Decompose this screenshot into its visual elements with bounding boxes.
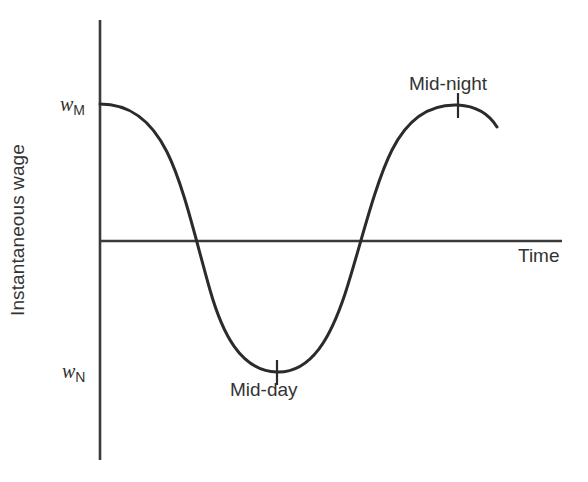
annotation-mid-night: Mid-night (409, 74, 487, 93)
chart-figure: Instantaneous wage Time wM wN Mid-night … (0, 0, 588, 482)
wage-cycle-line-chart (0, 0, 588, 482)
wage-symbol-upper: w (60, 93, 73, 115)
annotation-mid-day: Mid-day (230, 380, 298, 399)
y-axis-label-w-min: wN (62, 361, 86, 384)
y-axis-title: Instantaneous wage (0, 0, 34, 482)
x-axis-title: Time (518, 246, 560, 265)
wage-curve (100, 104, 497, 372)
y-axis-label-w-max: wM (60, 94, 85, 117)
wage-symbol-lower: w (62, 360, 75, 382)
wage-subscript-upper: M (73, 102, 85, 118)
wage-subscript-lower: N (75, 369, 85, 385)
y-axis-title-text: Instantaneous wage (8, 144, 27, 338)
